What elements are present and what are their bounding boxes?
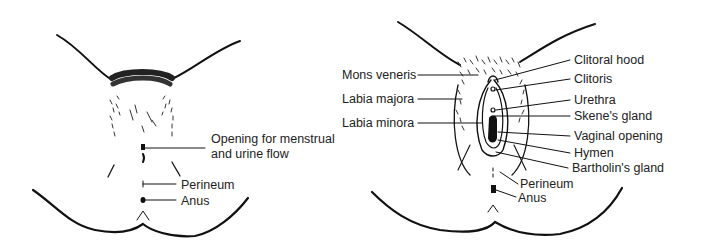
label-perineum-right: Perineum [520, 177, 574, 191]
label-clitoral-hood: Clitoral hood [574, 53, 644, 67]
label-hymen: Hymen [574, 146, 614, 160]
label-skenes-gland: Skene's gland [574, 109, 652, 123]
label-urethra: Urethra [574, 93, 616, 107]
label-perineum-left: Perineum [181, 178, 235, 192]
label-anus-left: Anus [181, 194, 210, 208]
label-labia-minora: Labia minora [342, 116, 414, 130]
label-opening-line2: and urine flow [211, 147, 289, 161]
label-vaginal-opening: Vaginal opening [574, 129, 663, 143]
label-opening-line1: Opening for menstrual [211, 132, 335, 146]
label-labia-majora: Labia majora [342, 92, 414, 106]
label-bartholins-gland: Bartholin's gland [572, 161, 664, 175]
label-mons-veneris: Mons veneris [342, 68, 416, 82]
label-clitoris: Clitoris [574, 72, 612, 86]
label-anus-right: Anus [518, 191, 547, 205]
